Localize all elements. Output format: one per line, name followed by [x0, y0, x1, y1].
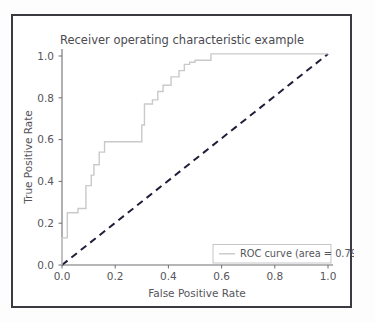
- x-tick-label-2: 0.4: [160, 270, 177, 282]
- y-axis-title: True Positive Rate: [22, 110, 34, 205]
- plot-area: Receiver operating characteristic exampl…: [13, 16, 350, 306]
- y-tick-label-5: 1.0: [37, 50, 54, 62]
- chance-diagonal-line: [62, 54, 328, 265]
- x-tick-label-1: 0.2: [107, 270, 124, 282]
- x-tick-label-5: 1.0: [320, 270, 337, 282]
- legend-label-roc-curve: ROC curve (area = 0.79): [240, 248, 354, 259]
- y-tick-label-0: 0.0: [37, 259, 54, 271]
- chart-title: Receiver operating characteristic exampl…: [60, 33, 304, 47]
- figure-frame: Receiver operating characteristic exampl…: [11, 14, 352, 308]
- x-tick-label-4: 0.8: [266, 270, 283, 282]
- screenshot-root: Receiver operating characteristic exampl…: [0, 0, 375, 322]
- x-tick-label-0: 0.0: [54, 270, 71, 282]
- y-tick-label-1: 0.2: [37, 217, 54, 229]
- legend[interactable]: ROC curve (area = 0.79): [213, 245, 354, 264]
- y-tick-label-2: 0.4: [37, 175, 54, 187]
- x-tick-label-3: 0.6: [213, 270, 230, 282]
- y-tick-label-4: 0.8: [37, 92, 54, 104]
- x-axis-title: False Positive Rate: [148, 287, 246, 299]
- y-tick-label-3: 0.6: [37, 133, 54, 145]
- roc-chart-svg: Receiver operating characteristic exampl…: [13, 16, 354, 310]
